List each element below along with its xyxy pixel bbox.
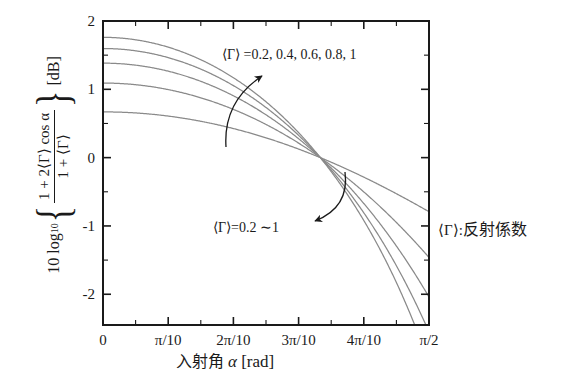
y-tick-label: 2: [88, 13, 96, 29]
legend-meaning: 反射係数: [463, 220, 527, 239]
x-tick-label: 2π/10: [216, 332, 250, 348]
x-axis-label-jp: 入射角: [176, 352, 224, 371]
x-tick-label: π/2: [419, 332, 438, 348]
y-axis-label-unit: [dB]: [45, 56, 63, 85]
annotation-bottom-label: ⟨Γ⟩=0.2 ∼1: [213, 219, 279, 236]
y-axis-label-fraction: 1 + 2⟨Γ⟩ cos α 1 + ⟨Γ⟩: [37, 110, 72, 203]
x-axis-label-variable: α: [228, 352, 237, 371]
y-axis-label: 10 log10 { 1 + 2⟨Γ⟩ cos α 1 + ⟨Γ⟩ } [dB]: [41, 15, 67, 315]
brace-open-icon: {: [36, 206, 73, 222]
annotation-top-label: ⟨Γ⟩ =0.2, 0.4, 0.6, 0.8, 1: [222, 46, 357, 63]
y-tick-label: -1: [83, 218, 96, 234]
x-tick-label: 0: [99, 332, 107, 348]
x-axis-label-unit: [rad]: [241, 352, 274, 371]
y-axis-label-lead-subscript: 10: [49, 223, 60, 233]
y-tick-label: 1: [88, 81, 96, 97]
y-axis-tick-labels: 210-1-2: [83, 13, 96, 302]
x-tick-label: 3π/10: [281, 332, 315, 348]
x-axis-tick-labels: 0π/102π/103π/104π/10π/2: [99, 332, 438, 348]
legend-symbol: ⟨Γ⟩: [438, 222, 459, 238]
y-tick-label: -2: [83, 286, 96, 302]
y-tick-label: 0: [88, 150, 96, 166]
legend-note: ⟨Γ⟩:反射係数: [438, 216, 527, 240]
x-tick-label: π/10: [155, 332, 182, 348]
chart-figure: 0π/102π/103π/104π/10π/2 210-1-2 10 log10…: [0, 0, 583, 391]
fraction-denominator: 1 + ⟨Γ⟩: [55, 131, 72, 181]
x-tick-label: 4π/10: [347, 332, 381, 348]
brace-close-icon: }: [36, 91, 73, 107]
plot-background: [103, 21, 429, 325]
y-axis-label-lead: 10 log: [45, 233, 63, 273]
fraction-numerator: 1 + 2⟨Γ⟩ cos α: [37, 110, 55, 203]
x-axis-label: 入射角 α [rad]: [0, 348, 450, 372]
